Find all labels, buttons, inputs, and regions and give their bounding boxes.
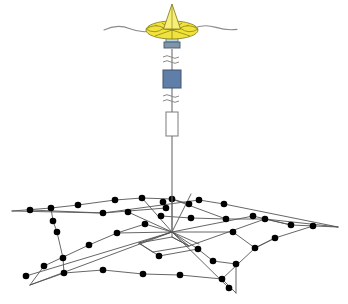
- chord-center-left-long: [26, 232, 172, 276]
- instrument-module-blue: [163, 70, 181, 88]
- spoke-upper-left-short: [128, 212, 172, 232]
- sensor-node: [272, 235, 279, 242]
- sensor-node: [142, 221, 149, 228]
- network-long-chords: [12, 198, 338, 293]
- sensor-node: [54, 229, 61, 236]
- sensor-node: [160, 199, 167, 206]
- sensor-node: [114, 230, 121, 237]
- sensor-node: [41, 263, 48, 270]
- sensor-node: [233, 261, 240, 268]
- sensor-node: [252, 245, 259, 252]
- spoke-right-short: [172, 232, 199, 244]
- sensor-node: [48, 205, 55, 212]
- sensor-node: [310, 223, 317, 230]
- spoke-lower-right: [172, 232, 189, 246]
- sensor-node: [223, 216, 230, 223]
- sensor-node: [156, 253, 163, 260]
- sensor-node: [288, 222, 295, 229]
- sensor-node: [61, 270, 68, 277]
- sensor-node: [210, 258, 217, 265]
- sensor-node: [125, 209, 132, 216]
- sensor-node: [158, 213, 165, 220]
- sensor-node: [60, 255, 67, 262]
- sensor-node: [163, 205, 170, 212]
- buoy-clamp: [164, 42, 180, 48]
- network-nodes: [23, 195, 317, 292]
- sensor-node: [186, 201, 193, 208]
- sensor-node: [27, 207, 34, 214]
- sensor-node: [140, 271, 147, 278]
- sensor-node: [196, 197, 203, 204]
- diagram-canvas: [0, 0, 348, 304]
- sensor-node: [221, 201, 228, 208]
- sensor-node: [226, 285, 233, 292]
- sensor-node: [100, 267, 107, 274]
- cable-break-upper: [163, 56, 179, 64]
- seafloor-sensor-network: [12, 194, 338, 293]
- instrument-module-white: [166, 112, 178, 136]
- sensor-node: [86, 242, 93, 249]
- surface-buoy: [146, 4, 198, 39]
- spoke-left: [117, 232, 172, 233]
- sensor-node: [112, 197, 119, 204]
- sensor-node: [100, 210, 107, 217]
- cable-break-lower: [163, 95, 179, 103]
- sensor-node: [219, 276, 226, 283]
- sensor-node: [230, 229, 237, 236]
- sensor-node: [250, 213, 257, 220]
- chord-bottom-upper: [30, 224, 172, 285]
- sensor-node: [23, 273, 30, 280]
- sensor-node: [75, 202, 82, 209]
- sensor-node: [262, 216, 269, 223]
- ocean-observatory-diagram: [0, 0, 348, 304]
- sensor-node: [188, 215, 195, 222]
- sensor-node: [195, 246, 202, 253]
- chord-center-to-tipright: [189, 219, 338, 246]
- sensor-node: [50, 218, 57, 225]
- sensor-node: [177, 272, 184, 279]
- sensor-node: [139, 195, 146, 202]
